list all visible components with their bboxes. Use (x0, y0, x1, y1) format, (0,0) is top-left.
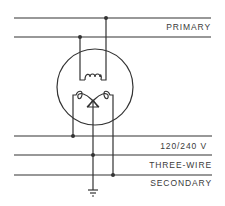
secondary-winding-left-icon (73, 91, 99, 136)
primary-lead-left (80, 37, 85, 80)
secondary-wiring-label: THREE-WIRE (149, 160, 212, 170)
junction-dot (71, 134, 75, 138)
secondary-type-label: SECONDARY (150, 178, 212, 188)
junction-dot (111, 173, 115, 177)
junction-dot (78, 35, 82, 39)
ground-icon (88, 190, 98, 196)
secondary-voltage-label: 120/240 V (160, 141, 207, 151)
primary-winding-icon (85, 74, 101, 80)
transformer-tank (57, 49, 133, 125)
junction-dot (91, 153, 95, 157)
junction-dot (104, 16, 108, 20)
primary-label: PRIMARY (166, 22, 211, 32)
